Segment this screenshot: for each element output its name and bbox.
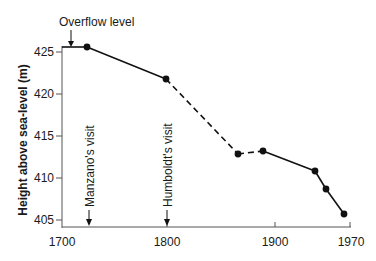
y-tick-labels: 425 420 415 410 405 bbox=[34, 45, 54, 227]
y-ticks bbox=[56, 52, 62, 220]
svg-text:405: 405 bbox=[34, 213, 54, 227]
svg-text:1970: 1970 bbox=[338, 235, 365, 249]
manzano-label: Manzano's visit bbox=[83, 125, 97, 207]
svg-text:1700: 1700 bbox=[49, 235, 76, 249]
y-axis-label: Height above sea-level (m) bbox=[16, 64, 30, 215]
svg-text:1800: 1800 bbox=[154, 235, 181, 249]
svg-text:1900: 1900 bbox=[262, 235, 289, 249]
svg-text:420: 420 bbox=[34, 87, 54, 101]
lake-level-chart: 425 420 415 410 405 1700 1800 1900 1970 … bbox=[0, 0, 376, 261]
manzano-arrow-icon bbox=[86, 219, 92, 226]
lake-level-series bbox=[87, 47, 344, 214]
overflow-label: Overflow level bbox=[59, 15, 134, 29]
x-ticks bbox=[167, 222, 350, 227]
overflow-arrow-icon bbox=[68, 41, 74, 47]
humboldt-arrow-icon bbox=[164, 219, 170, 226]
svg-text:415: 415 bbox=[34, 129, 54, 143]
svg-text:425: 425 bbox=[34, 45, 54, 59]
humboldt-label: Humboldt's visit bbox=[161, 123, 175, 207]
x-tick-labels: 1700 1800 1900 1970 bbox=[49, 235, 365, 249]
svg-text:410: 410 bbox=[34, 171, 54, 185]
